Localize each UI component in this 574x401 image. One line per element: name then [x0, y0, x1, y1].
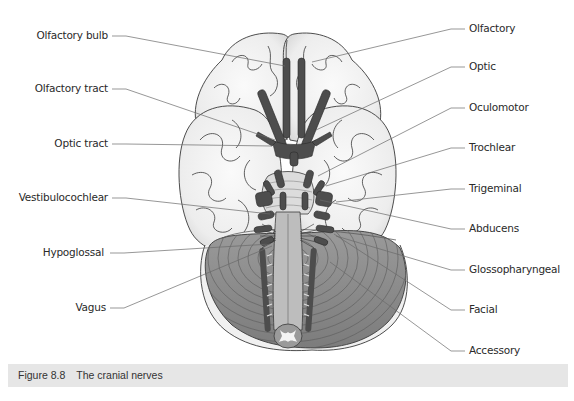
figure-title: The cranial nerves: [76, 369, 162, 381]
label-hypoglossal: Hypoglossal: [43, 246, 104, 258]
label-optic-tract: Optic tract: [54, 137, 108, 149]
label-vestibulocochlear: Vestibulocochlear: [19, 191, 108, 203]
label-vagus: Vagus: [75, 301, 106, 313]
label-olfactory-tract: Olfactory tract: [35, 82, 108, 94]
figure-number: Figure 8.8: [18, 369, 65, 381]
label-olfactory-bulb: Olfactory bulb: [36, 29, 108, 41]
label-oculomotor: Oculomotor: [469, 101, 529, 113]
label-glossopharyngeal: Glossopharyngeal: [469, 263, 560, 275]
label-abducens: Abducens: [469, 222, 519, 234]
label-olfactory: Olfactory: [469, 22, 515, 34]
label-optic: Optic: [469, 60, 496, 72]
label-trigeminal: Trigeminal: [469, 182, 521, 194]
label-accessory: Accessory: [469, 344, 520, 356]
label-trochlear: Trochlear: [469, 141, 515, 153]
figure-caption: Figure 8.8The cranial nerves: [18, 369, 163, 381]
label-facial: Facial: [469, 303, 497, 315]
